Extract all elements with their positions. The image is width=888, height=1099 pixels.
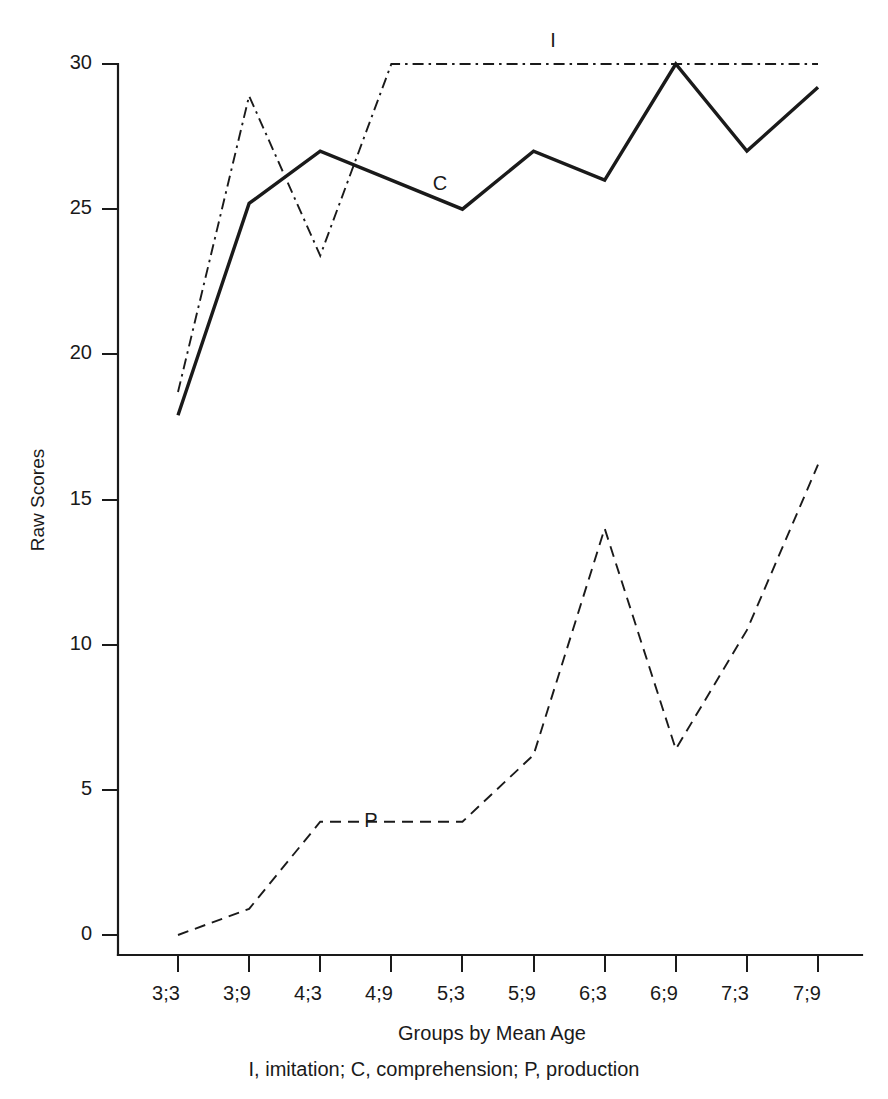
y-axis-ticks bbox=[102, 64, 118, 935]
y-tick-label-15: 15 bbox=[70, 487, 92, 509]
x-tick-label-1: 3;9 bbox=[223, 982, 251, 1004]
series-line-I bbox=[178, 64, 818, 392]
line-chart: 30 25 20 15 10 5 0 Raw Scores 3;3 3;9 4;… bbox=[0, 0, 888, 1099]
series-label-P: P bbox=[364, 809, 377, 831]
x-axis-title: Groups by Mean Age bbox=[398, 1022, 586, 1044]
x-tick-label-8: 7;3 bbox=[721, 982, 749, 1004]
series-line-P bbox=[178, 465, 818, 935]
y-tick-label-5: 5 bbox=[81, 777, 92, 799]
x-tick-label-5: 5;9 bbox=[508, 982, 536, 1004]
y-tick-label-25: 25 bbox=[70, 196, 92, 218]
x-tick-label-2: 4;3 bbox=[294, 982, 322, 1004]
y-tick-label-30: 30 bbox=[70, 51, 92, 73]
series-label-I: I bbox=[550, 29, 556, 51]
x-tick-label-4: 5;3 bbox=[437, 982, 465, 1004]
x-tick-label-6: 6;3 bbox=[579, 982, 607, 1004]
x-tick-label-9: 7;9 bbox=[793, 982, 821, 1004]
y-axis-title: Raw Scores bbox=[27, 449, 48, 551]
x-axis-ticks bbox=[178, 955, 818, 972]
chart-caption: I, imitation; C, comprehension; P, produ… bbox=[249, 1058, 640, 1080]
x-tick-label-0: 3;3 bbox=[152, 982, 180, 1004]
y-tick-label-20: 20 bbox=[70, 341, 92, 363]
y-tick-label-0: 0 bbox=[81, 922, 92, 944]
x-tick-label-7: 6;9 bbox=[650, 982, 678, 1004]
figure-container: 30 25 20 15 10 5 0 Raw Scores 3;3 3;9 4;… bbox=[0, 0, 888, 1099]
series-label-C: C bbox=[433, 172, 447, 194]
y-tick-label-10: 10 bbox=[70, 632, 92, 654]
x-tick-label-3: 4;9 bbox=[365, 982, 393, 1004]
series-line-C bbox=[178, 64, 818, 415]
